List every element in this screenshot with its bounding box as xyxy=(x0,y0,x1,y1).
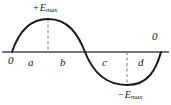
waveform-plot xyxy=(0,0,171,105)
positive-sign: + xyxy=(33,2,40,13)
axis-label-d: d xyxy=(138,57,144,68)
axis-label-c: c xyxy=(102,57,107,68)
sine-wave-diagram: 0 a b c d 0 +Emax −Emax xyxy=(0,0,171,105)
negative-amplitude-label: −Emax xyxy=(118,90,142,101)
positive-max-subscript: max xyxy=(46,6,58,14)
positive-amplitude-label: +Emax xyxy=(33,3,57,14)
negative-max-subscript: max xyxy=(131,93,143,101)
axis-label-b: b xyxy=(60,57,66,68)
axis-label-zero-left: 0 xyxy=(8,55,14,66)
negative-sign: − xyxy=(118,89,125,100)
axis-label-zero-right: 0 xyxy=(152,31,158,42)
axis-label-a: a xyxy=(28,57,34,68)
